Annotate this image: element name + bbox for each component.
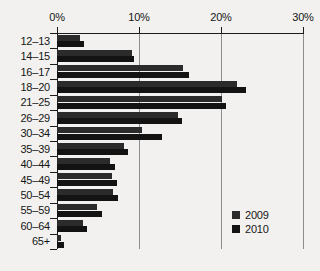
legend-item-2009: 2009 (232, 208, 269, 222)
bar-2010 (57, 149, 128, 155)
y-tick (50, 110, 57, 111)
y-tick (50, 64, 57, 65)
y-axis-labels: 12–1314–1516–1718–2021–2526–2930–3435–39… (0, 0, 50, 271)
legend-item-2010: 2010 (232, 222, 269, 236)
bar-2009 (57, 81, 237, 87)
y-tick (50, 187, 57, 188)
bar-2009 (57, 35, 80, 41)
bar-2010 (57, 87, 246, 93)
bar-2009 (57, 127, 142, 133)
y-tick (50, 172, 57, 173)
bar-2010 (57, 41, 84, 47)
y-tick (50, 218, 57, 219)
bar-2009 (57, 65, 183, 71)
x-tick-30% (303, 27, 304, 34)
bar-2010 (57, 72, 189, 78)
legend-label-2009: 2009 (245, 209, 269, 221)
y-tick (50, 79, 57, 80)
y-axis-category-label: 26–29 (20, 112, 50, 124)
y-axis-category-label: 60–64 (20, 220, 50, 232)
y-tick (50, 126, 57, 127)
y-axis-category-label: 35–39 (20, 143, 50, 155)
bar-2009 (57, 112, 178, 118)
bar-2010 (57, 242, 64, 248)
bar-2009 (57, 235, 61, 241)
y-axis-category-label: 14–15 (20, 50, 50, 62)
bar-2010 (57, 134, 162, 140)
bar-2009 (57, 143, 124, 149)
y-axis-category-label: 45–49 (20, 174, 50, 186)
y-axis-category-label: 55–59 (20, 204, 50, 216)
legend-swatch-2009 (232, 211, 240, 219)
y-tick (50, 249, 57, 250)
bar-2009 (57, 158, 110, 164)
bar-2010 (57, 211, 102, 217)
y-tick (50, 234, 57, 235)
gridline-30% (303, 33, 304, 249)
y-axis-category-label: 65+ (32, 235, 50, 247)
y-tick (50, 33, 57, 34)
y-tick (50, 203, 57, 204)
y-axis-category-label: 40–44 (20, 158, 50, 170)
bar-chart: 0%10%20%30% 12–1314–1516–1718–2021–2526–… (0, 0, 320, 271)
legend-label-2010: 2010 (245, 223, 269, 235)
y-axis-category-label: 12–13 (20, 35, 50, 47)
bar-2009 (57, 173, 112, 179)
bar-2009 (57, 204, 97, 210)
bar-2009 (57, 189, 113, 195)
bar-2010 (57, 56, 134, 62)
x-axis-tick-label: 20% (210, 11, 231, 23)
y-axis-category-label: 21–25 (20, 96, 50, 108)
bar-2010 (57, 180, 117, 186)
y-axis-category-label: 16–17 (20, 66, 50, 78)
legend-swatch-2010 (232, 225, 240, 233)
bar-2010 (57, 118, 182, 124)
bar-2010 (57, 103, 226, 109)
y-axis-category-label: 30–34 (20, 127, 50, 139)
y-tick (50, 48, 57, 49)
bar-2010 (57, 226, 87, 232)
bar-2009 (57, 50, 132, 56)
y-tick (50, 156, 57, 157)
y-axis-category-label: 18–20 (20, 81, 50, 93)
chart-legend: 2009 2010 (232, 208, 269, 236)
y-tick (50, 141, 57, 142)
bar-2010 (57, 164, 115, 170)
x-axis-tick-label: 10% (128, 11, 149, 23)
y-axis-category-label: 50–54 (20, 189, 50, 201)
x-axis-tick-label: 30% (292, 11, 313, 23)
bar-2009 (57, 220, 83, 226)
y-tick (50, 95, 57, 96)
bar-2010 (57, 195, 118, 201)
x-axis-tick-label: 0% (49, 11, 65, 23)
bar-2009 (57, 96, 222, 102)
